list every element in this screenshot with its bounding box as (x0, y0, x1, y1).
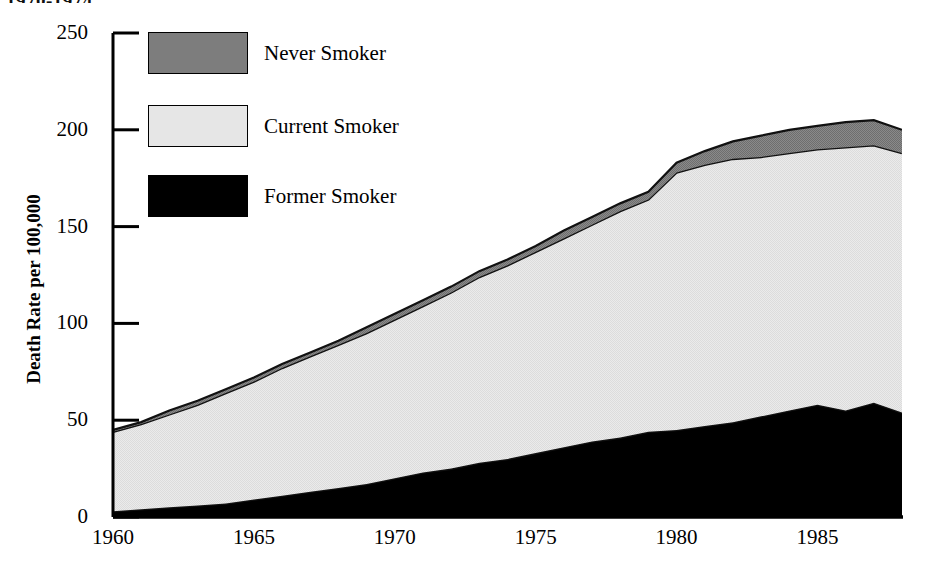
x-axis-tick-label: 1980 (656, 525, 698, 550)
legend-item-label: Never Smoker (264, 41, 386, 66)
legend-swatch-former-smoker (148, 175, 248, 217)
x-axis-tick-labels: 196019651970197519801985 (0, 525, 926, 559)
legend-swatch-current-smoker (148, 105, 248, 147)
legend-item-label: Current Smoker (264, 114, 399, 139)
x-axis-tick-label: 1965 (233, 525, 275, 550)
chart-legend: Never SmokerCurrent SmokerFormer Smoker (148, 30, 468, 215)
y-axis-tick-label: 100 (30, 312, 88, 333)
x-axis-tick-label: 1960 (92, 525, 134, 550)
y-axis-tick-label: 250 (30, 22, 88, 43)
x-axis-tick-label: 1970 (374, 525, 416, 550)
x-axis-tick-label: 1985 (796, 525, 838, 550)
y-axis-tick-label: 50 (30, 409, 88, 430)
legend-swatch-never-smoker (148, 32, 248, 74)
legend-item-label: Former Smoker (264, 184, 396, 209)
y-axis-tick-label: 0 (30, 506, 88, 527)
x-axis-tick-label: 1975 (515, 525, 557, 550)
y-axis-tick-label: 200 (30, 119, 88, 140)
y-axis-tick-labels: 050100150200250 (26, 0, 88, 572)
chart-figure: 1970-1974 Death Rate per 100,000 0501001… (0, 0, 926, 572)
y-axis-tick-label: 150 (30, 216, 88, 237)
